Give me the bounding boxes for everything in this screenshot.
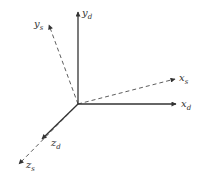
axis-y-s-label: ys <box>33 18 44 32</box>
axis-x-s-label: xs <box>179 72 189 86</box>
coordinate-frame-diagram: ydysxsxdzdzs <box>0 0 198 179</box>
axis-y-d-label: yd <box>81 7 93 21</box>
axis-label-subscript: s <box>185 78 189 86</box>
axis-z-s-line <box>19 104 78 164</box>
diagram-svg: ydysxsxdzdzs <box>0 0 198 179</box>
labels-group: ydysxsxdzdzs <box>25 7 192 173</box>
axes-group <box>19 12 176 164</box>
axis-label-subscript: d <box>88 13 93 21</box>
axis-z-s-label: zs <box>25 159 35 173</box>
axis-label-subscript: d <box>187 104 192 112</box>
axis-label-subscript: d <box>56 143 61 151</box>
axis-x-s-line <box>78 79 175 104</box>
axis-y-s-line <box>49 25 78 104</box>
axis-z-d-label: zd <box>50 137 61 151</box>
axis-label-subscript: s <box>40 24 44 32</box>
axis-x-d-label: xd <box>181 98 192 112</box>
axis-label-subscript: s <box>31 165 35 173</box>
